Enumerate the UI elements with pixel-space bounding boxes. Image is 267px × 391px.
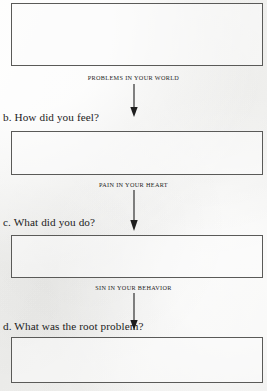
flow-arrow-1 xyxy=(127,84,141,118)
worksheet-sheet: PROBLEMS IN YOUR WORLD b. How did you fe… xyxy=(0,0,267,391)
answer-box-b[interactable] xyxy=(11,131,263,175)
flow-caption-sin-in-your-behavior: SIN IN YOUR BEHAVIOR xyxy=(0,284,267,291)
answer-box-d[interactable] xyxy=(11,337,263,383)
flow-arrow-2 xyxy=(127,190,141,232)
question-label-c: c. What did you do? xyxy=(3,216,95,228)
question-label-d: d. What was the root problem? xyxy=(3,320,144,332)
flow-caption-pain-in-your-heart: PAIN IN YOUR HEART xyxy=(0,181,267,188)
answer-box-c[interactable] xyxy=(11,235,263,278)
flow-caption-problems-in-your-world: PROBLEMS IN YOUR WORLD xyxy=(0,74,267,81)
question-label-b: b. How did you feel? xyxy=(3,111,99,123)
answer-box-a[interactable] xyxy=(11,3,263,66)
